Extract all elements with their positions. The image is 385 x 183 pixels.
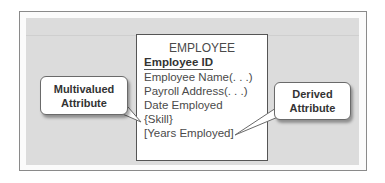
- derived-attribute-callout: Derived Attribute: [274, 82, 351, 120]
- multivalued-attribute-callout: Multivalued Attribute: [40, 76, 128, 115]
- callout-label-line1: Multivalued: [54, 82, 115, 96]
- callout-label-line2: Attribute: [290, 101, 336, 115]
- derived-pointer: [235, 108, 278, 135]
- callout-label-line1: Derived: [290, 87, 336, 101]
- callout-label-line2: Attribute: [54, 96, 115, 110]
